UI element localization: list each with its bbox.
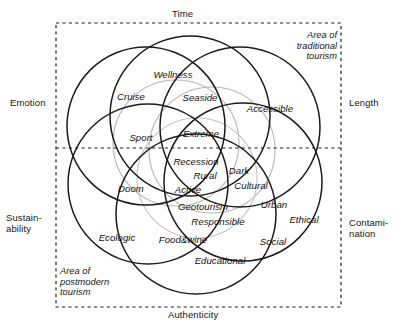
term-ecologic: Ecologic [99, 232, 136, 243]
term-responsible: Responsible [191, 216, 244, 227]
term-cruise: Cruise [117, 91, 145, 102]
term-rural: Rural [193, 170, 216, 181]
term-ethical: Ethical [289, 214, 318, 225]
term-dark: Dark [229, 165, 249, 176]
axis-label-sustainability: Sustain- ability [6, 213, 42, 234]
term-doom: Doom [118, 183, 144, 194]
diagram-canvas: TimeLengthContami- nationAuthenticitySus… [0, 0, 402, 331]
term-extreme: Extreme [183, 128, 219, 139]
axis-label-length: Length [349, 98, 379, 109]
term-seaside: Seaside [182, 92, 217, 103]
term-accessible: Accessible [247, 103, 293, 114]
area-note-traditional: Area of traditional tourism [281, 30, 337, 62]
axis-label-authenticity: Authenticity [168, 310, 218, 321]
term-active: Active [175, 184, 201, 195]
term-sport: Sport [129, 132, 152, 143]
axis-label-emotion: Emotion [10, 98, 46, 109]
term-geotourism: Geotourism [178, 201, 228, 212]
term-educational: Educational [195, 255, 246, 266]
axis-label-contamination: Contami- nation [349, 218, 388, 239]
axis-label-time: Time [172, 9, 193, 20]
term-foodandwine: Food&wine [159, 234, 207, 245]
term-recession: Recession [173, 156, 218, 167]
term-urban: Urban [261, 199, 287, 210]
area-note-postmodern: Area of postmodern tourism [60, 266, 130, 298]
term-social: Social [260, 236, 286, 247]
term-cultural: Cultural [234, 180, 267, 191]
term-wellness: Wellness [153, 69, 192, 80]
